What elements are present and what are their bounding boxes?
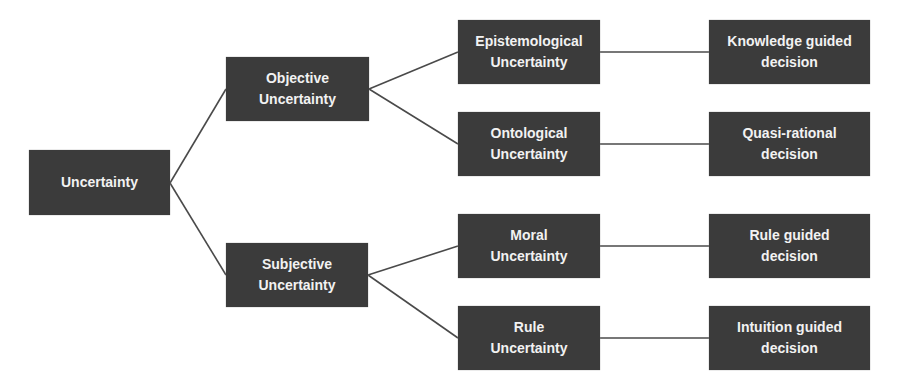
- node-epistemological-uncertainty: Epistemological Uncertainty: [458, 20, 600, 84]
- uncertainty-tree-diagram: Uncertainty Objective Uncertainty Subjec…: [0, 0, 899, 391]
- node-label: Objective Uncertainty: [259, 68, 336, 110]
- edge-subjective-moral: [368, 246, 458, 275]
- edge-subjective-rule: [368, 275, 458, 338]
- node-label: Subjective Uncertainty: [258, 254, 335, 296]
- edge-objective-ontological: [369, 89, 458, 144]
- node-label: Rule Uncertainty: [490, 317, 567, 359]
- node-ontological-uncertainty: Ontological Uncertainty: [458, 112, 600, 176]
- node-label: Intuition guided decision: [737, 317, 842, 359]
- node-label: Uncertainty: [61, 172, 138, 193]
- node-quasi-rational-decision: Quasi-rational decision: [709, 112, 870, 176]
- node-objective-uncertainty: Objective Uncertainty: [226, 57, 369, 121]
- node-knowledge-guided-decision: Knowledge guided decision: [709, 20, 870, 84]
- node-label: Moral Uncertainty: [490, 225, 567, 267]
- node-subjective-uncertainty: Subjective Uncertainty: [226, 243, 368, 307]
- node-label: Epistemological Uncertainty: [475, 31, 582, 73]
- node-intuition-guided-decision: Intuition guided decision: [709, 306, 870, 370]
- edge-objective-epistemological: [369, 52, 458, 89]
- node-rule-guided-decision: Rule guided decision: [709, 214, 870, 278]
- node-label: Knowledge guided decision: [727, 31, 851, 73]
- node-uncertainty: Uncertainty: [29, 150, 170, 215]
- edge-root-subjective: [170, 183, 226, 275]
- edge-root-objective: [170, 89, 226, 183]
- node-rule-uncertainty: Rule Uncertainty: [458, 306, 600, 370]
- node-label: Quasi-rational decision: [742, 123, 836, 165]
- node-moral-uncertainty: Moral Uncertainty: [458, 214, 600, 278]
- node-label: Rule guided decision: [749, 225, 829, 267]
- node-label: Ontological Uncertainty: [490, 123, 567, 165]
